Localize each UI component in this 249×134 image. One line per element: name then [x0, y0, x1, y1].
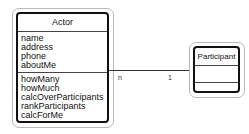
- multiplicity-participant: 1: [168, 74, 172, 81]
- participant-class[interactable]: Participant: [193, 46, 240, 93]
- actor-attributes: name address phone aboutMe: [18, 32, 107, 73]
- operation: calcForMe: [21, 111, 104, 120]
- participant-class-name: Participant: [195, 48, 238, 66]
- participant-operations: [195, 83, 238, 97]
- participant-attributes: [195, 66, 238, 83]
- multiplicity-actor: n: [118, 74, 122, 81]
- actor-class-name: Actor: [18, 14, 107, 32]
- association-line[interactable]: [109, 70, 193, 71]
- actor-operations: howMany howMuch calcOverParticipants ran…: [18, 73, 107, 122]
- actor-class[interactable]: Actor name address phone aboutMe howMany…: [16, 12, 109, 123]
- attribute: aboutMe: [21, 61, 104, 70]
